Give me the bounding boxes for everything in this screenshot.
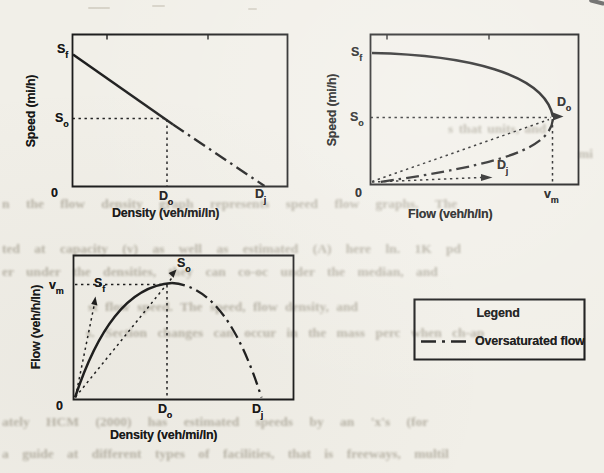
label-dj-flow-density: Dj: [252, 402, 263, 416]
label-sf-flow-density: Sf: [94, 276, 105, 290]
label-dj-speed-density: Dj: [255, 187, 266, 201]
y-axis-label-speed-flow: Speed (mi/h): [325, 74, 339, 147]
origin-label-flow-density: 0: [56, 399, 63, 413]
sf-ray-arrowhead: [91, 297, 97, 306]
legend-title: Legend: [415, 306, 581, 320]
do-ray-arrowhead: [553, 113, 564, 121]
legend-entry-oversaturated-flow: Oversaturated flow: [475, 334, 585, 348]
origin-label-speed-density: 0: [51, 186, 58, 200]
origin-label-speed-flow: 0: [355, 186, 362, 200]
flow-density-speed-ray-so: [76, 279, 172, 398]
speed-density-plot-frame: [73, 35, 288, 187]
label-vm-speed-flow: vm: [544, 187, 559, 201]
so-ray-arrowhead: [169, 270, 177, 278]
traffic-flow-fundamental-diagrams-figure: s that units, and mi n the flow density …: [0, 0, 604, 473]
label-sf-speed-flow: Sf: [351, 45, 362, 59]
label-sf-speed-density: Sf: [57, 42, 68, 56]
y-axis-label-speed-density: Speed (mi/h): [24, 75, 38, 148]
chart-strokes-layer: [0, 0, 604, 473]
speed-flow-plot-frame: [371, 35, 579, 185]
x-axis-label-flow-density: Density (veh/mi/ln): [110, 428, 217, 442]
label-so-flow-density: So: [177, 256, 190, 270]
label-so-speed-density: So: [55, 111, 68, 125]
label-vm-flow-density: vm: [49, 278, 64, 292]
y-axis-label-flow-density: Flow (veh/h/ln): [29, 285, 43, 370]
label-dj-speed-flow: Dj: [497, 158, 508, 172]
label-do-speed-flow: Do: [557, 95, 571, 109]
flow-density-speed-ray-sf: [76, 306, 95, 397]
x-axis-label-speed-flow: Flow (veh/h/ln): [408, 207, 493, 221]
label-do-speed-density: Do: [159, 189, 173, 203]
flow-density-curve-undersaturated: [75, 283, 172, 398]
label-so-speed-flow: So: [350, 110, 363, 124]
speed-density-curve-oversaturated: [173, 125, 265, 187]
speed-flow-density-ray-do: [372, 120, 549, 182]
flow-density-curve-oversaturated: [172, 283, 262, 398]
label-do-flow-density: Do: [158, 402, 172, 416]
x-axis-label-speed-density: Density (veh/mi/ln): [112, 206, 219, 220]
speed-flow-curve-upper-branch: [372, 53, 553, 117]
dj-ray-arrowhead: [481, 174, 493, 181]
speed-flow-curve-oversaturated: [376, 119, 553, 183]
speed-density-curve-undersaturated: [73, 55, 173, 125]
